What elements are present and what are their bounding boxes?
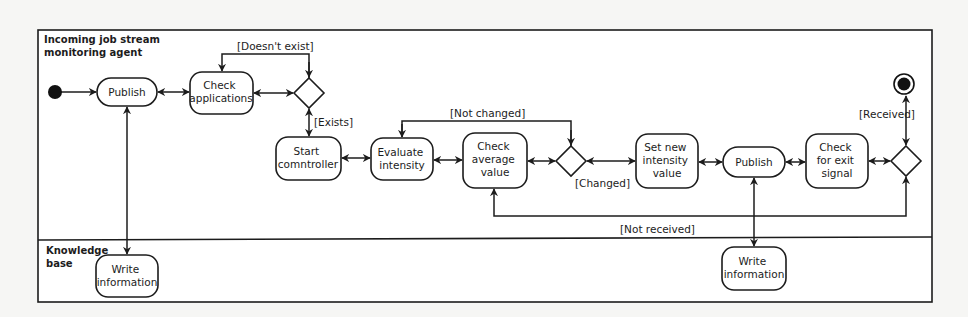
action-check-exit-signal: Check for exit signal	[806, 134, 868, 188]
lane-label-line: Incoming job stream	[44, 34, 160, 45]
action-label: Publish	[108, 86, 145, 98]
label-line: signal	[821, 167, 852, 179]
label-line: intensity	[643, 154, 689, 166]
final-node	[894, 74, 914, 94]
guard-doesnt-exist: [Doesn't exist]	[237, 40, 314, 52]
guard-received: [Received]	[859, 108, 915, 120]
label-line: average	[472, 153, 515, 165]
guard-not-changed: [Not changed]	[450, 107, 525, 119]
action-write-information-2: Write information	[722, 247, 786, 290]
label-line: value	[481, 166, 510, 178]
action-write-information-1: Write information	[96, 255, 158, 297]
guard-not-received: [Not received]	[620, 223, 695, 235]
initial-node	[48, 85, 62, 99]
action-label: Check for exit signal	[817, 141, 858, 179]
action-evaluate-intensity: Evaluate intensity	[371, 138, 433, 180]
label-line: Evaluate	[377, 146, 423, 158]
label-line: value	[653, 167, 682, 179]
label-line: Check	[819, 141, 852, 153]
action-check-applications: Check applications	[189, 72, 253, 114]
label-line: Check	[203, 79, 236, 91]
action-start-controller: Start comntroller	[276, 137, 341, 180]
activity-diagram: Incoming job stream monitoring agent Kno…	[0, 0, 968, 317]
label-line: Check	[477, 140, 510, 152]
label-line: Start	[294, 145, 320, 157]
guard-exists: [Exists]	[314, 116, 353, 128]
label-line: information	[97, 276, 158, 288]
action-set-new-intensity: Set new intensity value	[636, 134, 698, 188]
action-publish-1: Publish	[97, 78, 157, 106]
action-label: Evaluate intensity	[377, 146, 426, 171]
diagram-canvas: Incoming job stream monitoring agent Kno…	[0, 0, 968, 317]
lane-label-line: monitoring agent	[44, 47, 142, 58]
label-line: for exit	[817, 154, 854, 166]
action-label: Publish	[735, 156, 772, 168]
lane-label-line: base	[46, 258, 73, 269]
label-line: Set new	[644, 141, 687, 153]
label-line: intensity	[379, 159, 425, 171]
label-line: Write	[738, 255, 766, 267]
label-line: information	[724, 268, 785, 280]
action-publish-2: Publish	[723, 147, 785, 177]
label-line: comntroller	[278, 158, 339, 170]
final-node-dot	[898, 78, 911, 91]
label-line: applications	[189, 92, 252, 104]
guard-changed: [Changed]	[575, 177, 630, 189]
lane-label-line: Knowledge	[46, 245, 109, 256]
label-line: Write	[111, 263, 139, 275]
action-check-average-value: Check average value	[463, 133, 527, 188]
